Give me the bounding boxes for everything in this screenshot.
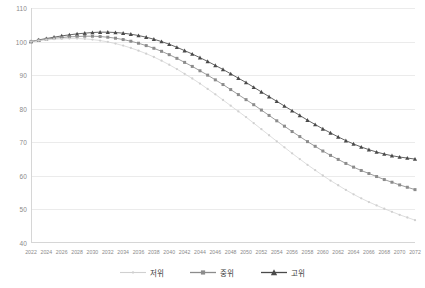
data-point [221, 67, 225, 71]
data-point [175, 57, 178, 60]
data-point [352, 193, 354, 195]
data-point [183, 61, 186, 64]
legend-item-고위[interactable]: 고위 [261, 267, 305, 278]
data-point [130, 47, 132, 49]
data-point [145, 44, 148, 47]
data-point [390, 181, 393, 184]
x-axis-tick-label: 2044 [194, 249, 206, 255]
data-point [229, 88, 232, 91]
data-point [314, 145, 317, 148]
data-point [260, 109, 263, 112]
data-point [68, 37, 70, 39]
data-point [414, 188, 417, 191]
chart-legend: 저위중위고위 [0, 263, 425, 281]
data-point [237, 110, 239, 112]
data-point [160, 60, 162, 62]
x-axis-tick-label: 2046 [209, 249, 221, 255]
data-point [191, 77, 193, 79]
data-point [206, 74, 209, 77]
data-point [298, 113, 302, 117]
data-point [106, 36, 109, 39]
data-point [61, 38, 63, 40]
data-point [168, 64, 170, 66]
data-point [122, 44, 124, 46]
data-point [345, 189, 347, 191]
data-point [214, 78, 217, 81]
x-axis-tick-label: 2068 [378, 249, 390, 255]
data-point [129, 40, 132, 43]
x-axis-tick-label: 2062 [332, 249, 344, 255]
x-axis-tick-label: 2038 [148, 249, 160, 255]
data-point [275, 99, 279, 103]
series-line [31, 32, 415, 159]
data-point [267, 95, 271, 99]
data-point [176, 68, 178, 70]
data-point [107, 41, 109, 43]
series-line [31, 36, 415, 189]
legend-marker-icon [120, 268, 146, 277]
data-point [237, 93, 240, 96]
data-point [260, 128, 262, 130]
data-point [236, 76, 240, 80]
data-point [329, 154, 332, 157]
data-point [360, 197, 362, 199]
data-point [398, 214, 400, 216]
data-point [84, 38, 86, 40]
data-point [283, 125, 286, 128]
legend-label: 저위 [150, 267, 164, 278]
data-point [152, 47, 155, 50]
data-point [222, 83, 225, 86]
legend-item-저위[interactable]: 저위 [120, 267, 164, 278]
data-point [91, 38, 93, 40]
series-중위 [30, 35, 417, 191]
data-point [398, 183, 401, 186]
data-point [291, 130, 294, 133]
data-point [321, 150, 324, 153]
data-point [114, 37, 117, 40]
data-point [322, 174, 324, 176]
x-axis-tick-label: 2058 [302, 249, 314, 255]
data-point [313, 122, 317, 126]
data-point [406, 216, 408, 218]
legend-item-중위[interactable]: 중위 [190, 267, 234, 278]
data-point [268, 134, 270, 136]
data-point [383, 208, 385, 210]
series-line [31, 39, 415, 221]
data-point [214, 93, 216, 95]
data-point [160, 50, 163, 53]
x-axis-tick-label: 2048 [225, 249, 237, 255]
data-point [352, 166, 355, 169]
data-point [275, 119, 278, 122]
data-point [199, 82, 201, 84]
data-point [76, 37, 78, 39]
x-axis-tick-label: 2028 [71, 249, 83, 255]
x-axis-tick-label: 2026 [56, 249, 68, 255]
data-point [375, 175, 378, 178]
data-point [45, 39, 47, 41]
series-layer [0, 0, 425, 248]
x-axis-tick-label: 2060 [317, 249, 329, 255]
population-projection-chart: 110100908070605040 202220242026202820302… [0, 0, 425, 288]
plot-wrapper: 110100908070605040 202220242026202820302… [0, 0, 425, 248]
data-point [168, 53, 171, 56]
data-point [83, 35, 86, 38]
data-point [253, 122, 255, 124]
data-point [276, 140, 278, 142]
legend-marker-icon [190, 268, 216, 277]
data-point [229, 72, 233, 76]
legend-marker-icon [261, 268, 287, 277]
data-point [298, 135, 301, 138]
data-point [153, 56, 155, 58]
data-point [244, 80, 248, 84]
data-point [137, 49, 139, 51]
data-point [245, 98, 248, 101]
x-axis-tick-label: 2022 [25, 249, 37, 255]
x-axis-tick-label: 2030 [87, 249, 99, 255]
data-point [252, 85, 256, 89]
data-point [198, 69, 201, 72]
x-axis-tick-label: 2066 [363, 249, 375, 255]
x-axis-tick-label: 2036 [133, 249, 145, 255]
x-axis-tick-label: 2050 [240, 249, 252, 255]
data-point [245, 116, 247, 118]
data-point [368, 201, 370, 203]
